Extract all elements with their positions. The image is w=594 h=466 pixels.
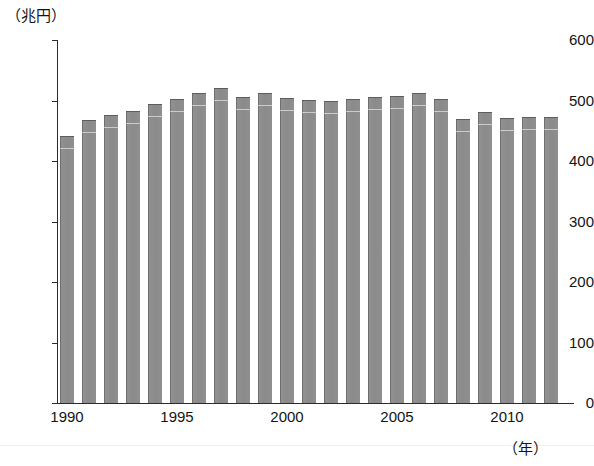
bar xyxy=(126,111,140,403)
bar xyxy=(456,119,470,403)
bar xyxy=(412,93,426,403)
x-tick-label: 1990 xyxy=(50,408,83,425)
x-tick-label: 2010 xyxy=(490,408,523,425)
x-axis-line xyxy=(57,403,574,404)
bar xyxy=(324,101,338,404)
bar xyxy=(368,97,382,403)
x-axis-unit-label: （年） xyxy=(503,437,548,458)
y-tick-mark xyxy=(52,403,57,404)
bar xyxy=(302,100,316,403)
bar xyxy=(258,93,272,403)
bar xyxy=(346,99,360,403)
bar xyxy=(522,117,536,403)
bar xyxy=(170,99,184,403)
x-tick-label: 2000 xyxy=(270,408,303,425)
bar xyxy=(82,120,96,403)
bar xyxy=(390,96,404,403)
x-tick-label: 2005 xyxy=(380,408,413,425)
plot-area xyxy=(57,40,574,403)
bar xyxy=(214,88,228,403)
bar xyxy=(478,112,492,403)
bar xyxy=(500,118,514,403)
scan-artifact-line xyxy=(0,445,594,446)
y-axis-unit-label: （兆円） xyxy=(6,4,66,25)
bar xyxy=(544,117,558,403)
bar-chart: （兆円） 0100200300400500600 199019952000200… xyxy=(0,0,594,466)
bar xyxy=(60,136,74,403)
x-tick-label: 1995 xyxy=(160,408,193,425)
bar xyxy=(434,99,448,403)
bar xyxy=(148,104,162,403)
bar xyxy=(236,97,250,403)
bar xyxy=(280,98,294,403)
bar xyxy=(192,93,206,403)
bar xyxy=(104,115,118,403)
